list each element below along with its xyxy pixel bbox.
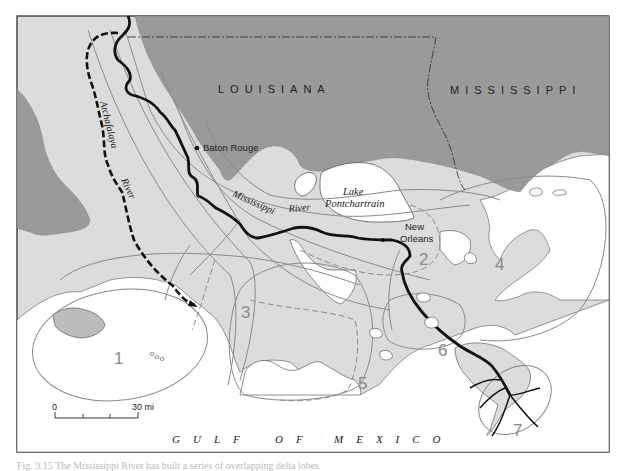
figure-caption: Fig. 9.15 The Mississippi River has buil… [17, 460, 607, 471]
label-lake: Lake [342, 186, 364, 197]
lobe-2-label: 2 [419, 250, 428, 269]
lobe-5-label: 5 [358, 374, 367, 393]
lobe-1-label: 1 [114, 349, 123, 368]
label-mississippi-river-2: River [287, 201, 311, 214]
label-baton-rouge: Baton Rouge [203, 142, 258, 153]
lobe-7-label: 7 [513, 421, 522, 440]
lobe-4-label: 4 [495, 255, 504, 274]
scale-bar-start: 0 [52, 402, 57, 412]
lobe-3-label: 3 [241, 303, 250, 322]
label-gulf-of: OF [275, 433, 316, 445]
label-louisiana: LOUISIANA [218, 83, 331, 95]
label-new-orleans-2: Orleans [400, 233, 434, 244]
label-pontchartrain: Pontchartrain [324, 198, 385, 209]
delta-map: LOUISIANA MISSISSIPPI Baton Rouge New Or… [0, 0, 622, 471]
label-new-orleans-1: New [405, 221, 424, 232]
label-mississippi: MISSISSIPPI [450, 84, 581, 96]
new-orleans-dot [381, 238, 385, 242]
lobe-6-label: 6 [438, 341, 447, 360]
label-gulf-of-mexico: GULF [172, 433, 253, 445]
label-gulf-mexico: MEXICO [333, 433, 454, 445]
baton-rouge-dot [195, 146, 200, 151]
scale-bar-end: 30 mi [132, 402, 154, 412]
